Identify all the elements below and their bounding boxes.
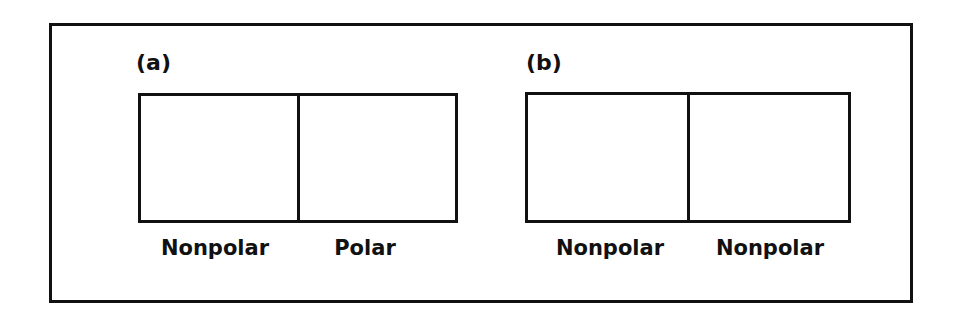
panel-a-box [138, 93, 458, 223]
panel-a-left-caption: Nonpolar [135, 236, 295, 260]
panel-b-right-caption: Nonpolar [690, 236, 850, 260]
panel-b-right-region [687, 95, 849, 220]
panel-a-right-caption: Polar [285, 236, 445, 260]
panel-b-box [525, 92, 851, 223]
panel-b-left-caption: Nonpolar [530, 236, 690, 260]
panel-a-right-region [297, 96, 456, 220]
panel-a-label: (a) [136, 50, 171, 75]
panel-a-left-region [141, 96, 297, 220]
panel-b-left-region [528, 95, 687, 220]
panel-b-label: (b) [526, 50, 562, 75]
